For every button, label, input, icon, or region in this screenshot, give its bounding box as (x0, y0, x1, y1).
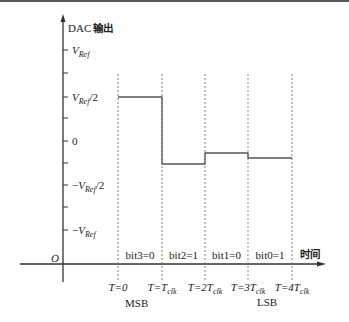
lsb-label: LSB (257, 296, 277, 308)
dac-output-timing-diagram: DAC 输出 时间 O VRefVRef/20−VRef/2−VRef bit3… (0, 0, 349, 322)
y-tick-label: VRef (72, 44, 91, 59)
origin-label: O (51, 252, 59, 264)
y-axis-arrow-icon (61, 14, 66, 22)
y-tick-label: −VRef (72, 224, 97, 239)
time-label: T=0 (108, 281, 128, 293)
bit-label: bit2=1 (169, 249, 198, 261)
y-axis (61, 14, 66, 282)
msb-label: MSB (125, 297, 148, 309)
y-tick-label: VRef/2 (72, 91, 98, 106)
bit-label: bit1=0 (212, 249, 241, 261)
time-label: T=4Tclk (275, 281, 310, 296)
time-label: T=Tclk (148, 281, 177, 296)
time-label: T=3Tclk (231, 281, 266, 296)
time-labels: T=0T=TclkT=2TclkT=3TclkT=4Tclk (108, 281, 309, 296)
x-axis-title: 时间 (300, 248, 320, 260)
time-label: T=2Tclk (188, 281, 223, 296)
y-tick-label: 0 (72, 135, 78, 147)
y-axis-title-cjk: 输出 (93, 22, 113, 34)
bit-label: bit3=0 (126, 249, 155, 261)
bit-label: bit0=1 (256, 249, 285, 261)
x-axis-arrow-icon (317, 262, 326, 267)
y-tick-label: −VRef/2 (72, 179, 104, 194)
x-axis (20, 262, 326, 267)
y-axis-title-latin: DAC (68, 22, 91, 34)
y-axis-ticks: VRefVRef/20−VRef/2−VRef (63, 44, 104, 239)
